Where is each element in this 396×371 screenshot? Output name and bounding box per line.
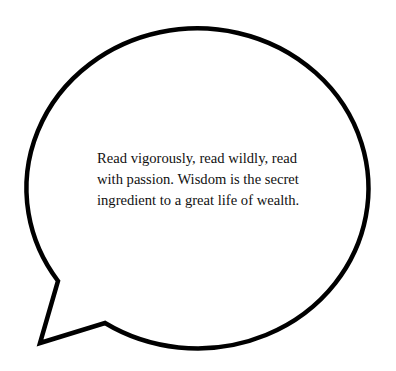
- quote-line-2: with passion. Wisdom is the secret: [97, 169, 312, 190]
- quote-text: Read vigorously, read wildly, read with …: [97, 148, 312, 211]
- quote-line-3: ingredient to a great life of wealth.: [97, 190, 312, 211]
- quote-line-1: Read vigorously, read wildly, read: [97, 148, 312, 169]
